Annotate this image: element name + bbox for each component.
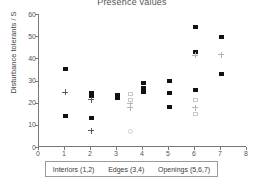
data-point-plus [88,128,94,134]
x-tick-mark [90,147,91,150]
data-point-plus [218,52,224,58]
data-point-square-filled [115,96,120,100]
y-axis-label: Disturbance tolerants / S [9,0,18,118]
chart-title: Presence values [0,0,264,7]
data-point-square-filled [63,114,68,118]
data-point-plus [88,97,94,103]
x-tick-mark [142,147,143,150]
data-point-square-filled [167,105,172,109]
data-point-plus [62,89,68,95]
data-point-square-filled [167,79,172,83]
data-point-square-filled [167,91,172,95]
data-point-circle-open [128,129,133,134]
group-label-edges: Edges (3,4) [108,166,144,173]
x-tick-mark [168,147,169,150]
data-point-square-filled [193,25,198,29]
x-tick-label: 1 [57,150,71,157]
x-tick-label: 5 [161,150,175,157]
data-point-plus [192,105,198,111]
data-point-square-filled [89,116,94,120]
x-tick-label: 2 [83,150,97,157]
data-point-square-open [128,98,133,102]
chart-figure: Presence values Disturbance tolerants / … [0,0,264,185]
x-tick-label: 3 [109,150,123,157]
group-label-interiors: Interiors (1,2) [53,166,95,173]
x-tick-mark [220,147,221,150]
data-point-square-open [193,112,198,116]
data-point-square-filled [193,88,198,92]
group-label-openings: Openings (5,6,7) [158,166,210,173]
x-tick-mark [64,147,65,150]
data-point-square-filled [219,72,224,76]
x-tick-mark [194,147,195,150]
data-point-square-filled [63,67,68,71]
data-point-plus [192,52,198,58]
x-tick-label: 8 [239,150,253,157]
group-legend: Interiors (1,2) Edges (3,4) Openings (5,… [45,161,218,177]
x-tick-label: 7 [213,150,227,157]
x-tick-mark [116,147,117,150]
data-point-square-open [193,98,198,102]
x-tick-mark [38,147,39,150]
plot-area [38,14,246,147]
data-point-square-filled [141,90,146,94]
data-point-square-filled [219,35,224,39]
x-tick-label: 4 [135,150,149,157]
x-tick-label: 0 [31,150,45,157]
data-point-square-filled [141,81,146,85]
data-point-plus [127,105,133,111]
data-point-square-open [128,92,133,96]
x-tick-mark [246,147,247,150]
x-tick-label: 6 [187,150,201,157]
